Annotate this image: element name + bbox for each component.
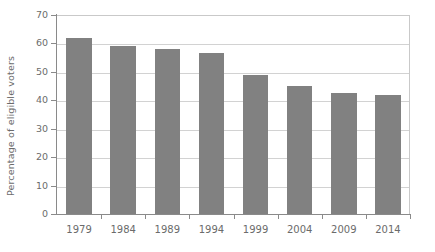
y-axis-tick <box>51 214 56 215</box>
bar-chart: Percentage of eligible voters 0102030405… <box>0 0 435 252</box>
y-axis-tick <box>51 100 56 101</box>
bar <box>110 46 136 214</box>
y-axis-tick-label: 40 <box>24 95 48 105</box>
bar <box>199 53 225 214</box>
bar <box>243 75 269 214</box>
x-axis-tick-label: 1989 <box>155 224 180 235</box>
y-axis-tick-label: 60 <box>24 38 48 48</box>
y-axis-tick <box>51 186 56 187</box>
x-axis-tick <box>366 215 367 219</box>
x-axis-tick-label: 1999 <box>243 224 268 235</box>
bars-layer <box>57 15 410 214</box>
y-axis-tick-label: 20 <box>24 152 48 162</box>
x-axis-tick-label: 2004 <box>287 224 312 235</box>
y-axis-tick <box>51 129 56 130</box>
bar <box>331 93 357 214</box>
y-axis-tick-label: 10 <box>24 181 48 191</box>
bar <box>66 38 92 214</box>
y-axis-tick <box>51 43 56 44</box>
y-axis-tick-label: 70 <box>24 10 48 20</box>
x-axis-tick-label: 1984 <box>110 224 135 235</box>
x-axis-tick <box>410 215 411 219</box>
x-axis-tick <box>234 215 235 219</box>
x-axis-tick <box>189 215 190 219</box>
x-axis-tick-label: 1994 <box>199 224 224 235</box>
y-axis-tick-label: 0 <box>24 209 48 219</box>
bar <box>287 86 313 214</box>
x-axis-tick <box>278 215 279 219</box>
bar <box>375 95 401 214</box>
y-axis-tick <box>51 72 56 73</box>
x-axis-tick <box>322 215 323 219</box>
x-axis-tick-label: 1979 <box>66 224 91 235</box>
x-axis-tick <box>101 215 102 219</box>
bar <box>155 49 181 214</box>
y-axis-tick <box>51 157 56 158</box>
x-axis-tick-label: 2009 <box>331 224 356 235</box>
y-axis-tick-label: 30 <box>24 124 48 134</box>
y-axis-tick <box>51 15 56 16</box>
x-axis-tick <box>145 215 146 219</box>
x-axis-tick-label: 2014 <box>375 224 400 235</box>
y-axis-title: Percentage of eligible voters <box>0 0 20 252</box>
y-axis-tick-label: 50 <box>24 67 48 77</box>
